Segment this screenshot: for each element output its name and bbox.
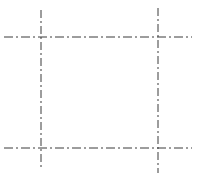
canvas-background — [0, 0, 203, 177]
drawing-canvas — [0, 0, 203, 177]
centerline-diagram — [0, 0, 203, 177]
